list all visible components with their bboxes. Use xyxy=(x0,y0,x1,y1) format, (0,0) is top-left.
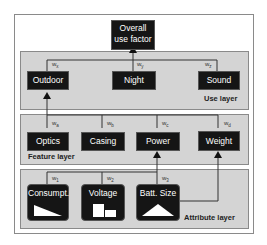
weight-wx: wx xyxy=(52,61,59,69)
overall-label-line2: use factor xyxy=(114,34,151,44)
node-battery-size: Batt. Size xyxy=(136,184,180,221)
overall-label-line1: Overall xyxy=(120,23,147,33)
weight-wz: wz xyxy=(205,61,212,69)
node-weight: Weight xyxy=(198,131,240,151)
node-voltage: Voltage xyxy=(81,184,125,221)
decreasing-ramp-icon xyxy=(28,185,68,220)
node-optics: Optics xyxy=(27,132,69,151)
weight-wc: wc xyxy=(162,120,169,128)
overall-use-factor-node: Overall use factor xyxy=(111,20,155,50)
attribute-layer-title: Attribute layer xyxy=(184,213,235,222)
weight-wa: wa xyxy=(52,120,59,128)
feature-layer-title: Feature layer xyxy=(28,152,75,161)
weight-wy: wy xyxy=(137,61,144,69)
weight-w2: w2 xyxy=(107,175,114,183)
node-night: Night xyxy=(112,71,156,90)
node-sound: Sound xyxy=(198,71,240,90)
node-consumption: Consumpt. xyxy=(27,184,69,221)
weight-wb: wb xyxy=(107,120,114,128)
step-bars-icon xyxy=(82,185,124,220)
node-power: Power xyxy=(136,132,180,151)
weight-wd: wd xyxy=(224,120,231,128)
weight-w1: w1 xyxy=(52,175,59,183)
node-outdoor: Outdoor xyxy=(27,71,69,90)
weight-w3: w3 xyxy=(162,175,169,183)
triangle-peak-icon xyxy=(137,185,179,220)
use-layer-title: Use layer xyxy=(204,94,237,103)
node-casing: Casing xyxy=(81,132,125,151)
